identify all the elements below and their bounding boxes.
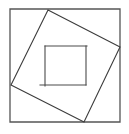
- geometric-figure: [0, 0, 129, 134]
- figure-container: [0, 0, 129, 134]
